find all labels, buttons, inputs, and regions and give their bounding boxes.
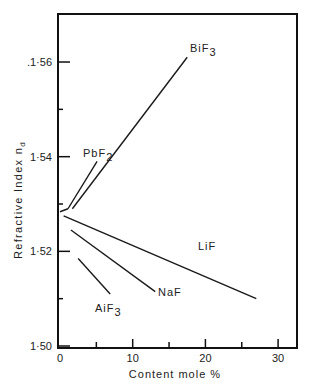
series-line-bif3 — [72, 57, 187, 208]
series-label-pbf2: PbF2 — [83, 147, 113, 163]
y-tick-label: 1·50 — [30, 340, 52, 352]
series-label-bif3: BiF3 — [190, 42, 217, 58]
x-tick-label: 20 — [199, 352, 211, 364]
series-line-pbf2 — [68, 161, 97, 208]
series-label-lif: LiF — [198, 240, 216, 252]
series-line-aif3 — [78, 258, 110, 293]
x-tick-label: 30 — [272, 352, 284, 364]
series-labels: BiF3PbF2LiFNaFAiF3 — [83, 42, 217, 318]
y-axis-ticks: 1·501·521·54.1·56 — [27, 56, 70, 352]
series-line-naf — [71, 230, 155, 292]
x-axis-label: Content mole % — [129, 368, 221, 380]
y-tick-label: .1·56 — [27, 56, 52, 68]
series-label-naf: NaF — [158, 286, 182, 298]
y-axis-label: Refractive Index nd — [12, 141, 27, 259]
refractive-index-chart: 1·501·521·54.1·56 0102030 BiF3PbF2LiFNaF… — [0, 0, 310, 388]
series-lines — [60, 57, 256, 298]
x-axis-ticks: 0102030 — [57, 339, 284, 364]
x-tick-label: 0 — [57, 352, 63, 364]
series-label-aif3: AiF3 — [95, 302, 122, 318]
y-tick-label: 1·54 — [30, 151, 52, 163]
chart-canvas: 1·501·521·54.1·56 0102030 BiF3PbF2LiFNaF… — [0, 0, 310, 388]
origin-segment — [60, 209, 68, 212]
x-tick-label: 10 — [127, 352, 139, 364]
y-tick-label: 1·52 — [30, 245, 52, 257]
y-axis-label-group: Refractive Index nd — [12, 141, 27, 259]
